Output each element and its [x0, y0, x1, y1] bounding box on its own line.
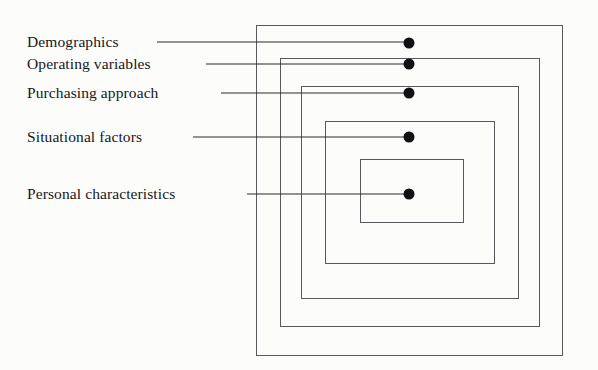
- label-2: Operating variables: [27, 56, 151, 72]
- label-4: Situational factors: [27, 129, 142, 145]
- leader-line-4: [193, 137, 409, 138]
- leader-line-1: [157, 42, 409, 43]
- purchasing-approach-dot: [404, 88, 415, 99]
- personal-characteristics-dot: [404, 189, 415, 200]
- situational-factors-dot: [404, 132, 415, 143]
- leader-line-2: [206, 64, 409, 65]
- diagram-canvas: DemographicsOperating variablesPurchasin…: [0, 0, 598, 370]
- label-3: Purchasing approach: [27, 85, 158, 101]
- demographics-dot: [404, 38, 415, 49]
- operating-variables-dot: [404, 59, 415, 70]
- label-1: Demographics: [27, 34, 119, 50]
- leader-line-5: [247, 194, 409, 195]
- leader-line-3: [221, 93, 409, 94]
- label-5: Personal characteristics: [27, 186, 175, 202]
